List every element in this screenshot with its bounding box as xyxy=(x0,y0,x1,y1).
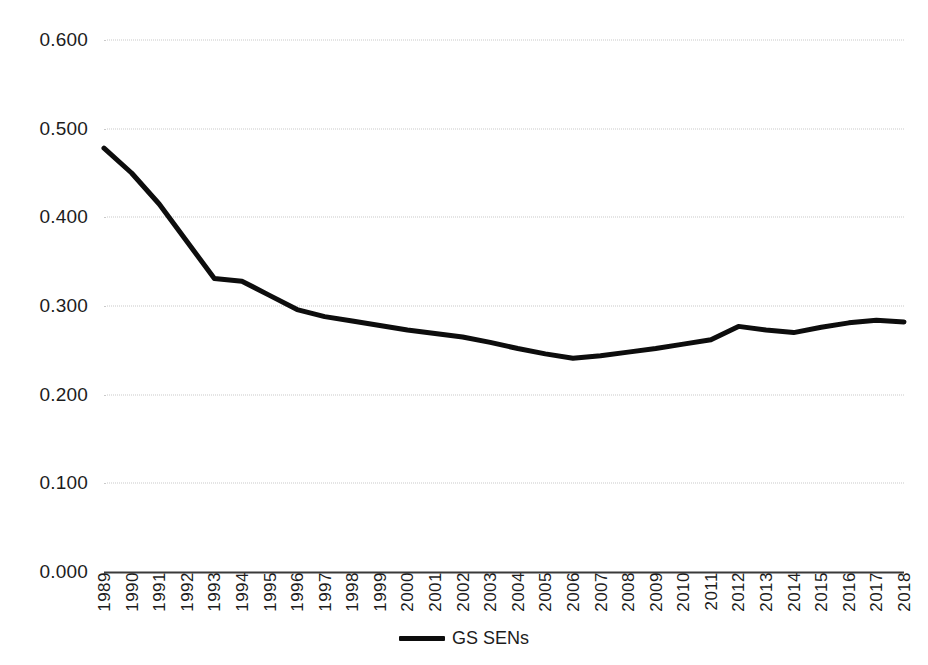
legend-item[interactable]: GS SENs xyxy=(399,628,529,649)
x-tick-label: 2012 xyxy=(729,572,749,612)
x-tick-label: 2017 xyxy=(867,572,887,612)
x-tick-label: 2009 xyxy=(647,572,667,612)
x-tick-label: 2008 xyxy=(619,572,639,612)
x-tick-label: 1993 xyxy=(205,572,225,612)
chart-legend: GS SENs xyxy=(0,628,928,649)
x-tick-label: 2004 xyxy=(509,572,529,612)
x-tick-label: 2006 xyxy=(564,572,584,612)
y-tick-label: 0.600 xyxy=(39,29,88,51)
y-tick-label: 0.200 xyxy=(39,384,88,406)
y-axis: 0.0000.1000.2000.3000.4000.5000.600 xyxy=(0,40,96,572)
x-tick-label: 2007 xyxy=(592,572,612,612)
x-tick-label: 1994 xyxy=(233,572,253,612)
legend-label: GS SENs xyxy=(452,628,529,649)
y-tick-label: 0.100 xyxy=(39,472,88,494)
x-tick-label: 2011 xyxy=(702,572,722,611)
series-layer xyxy=(104,40,904,572)
x-tick-label: 2016 xyxy=(840,572,860,612)
x-tick-label: 2010 xyxy=(674,572,694,612)
x-tick-label: 1990 xyxy=(123,572,143,612)
y-tick-label: 0.000 xyxy=(39,561,88,583)
y-tick-label: 0.400 xyxy=(39,206,88,228)
x-tick-label: 1989 xyxy=(95,572,115,612)
x-tick-label: 2015 xyxy=(812,572,832,612)
y-tick-label: 0.500 xyxy=(39,118,88,140)
x-tick-label: 2018 xyxy=(895,572,915,612)
x-tick-label: 2014 xyxy=(785,572,805,612)
x-tick-label: 1997 xyxy=(316,572,336,612)
x-tick-label: 1992 xyxy=(178,572,198,612)
x-tick-label: 2003 xyxy=(481,572,501,612)
x-tick-label: 2000 xyxy=(398,572,418,612)
x-tick-label: 1999 xyxy=(371,572,391,612)
x-tick-label: 2002 xyxy=(454,572,474,612)
series-line xyxy=(104,148,904,358)
x-tick-label: 1996 xyxy=(288,572,308,612)
legend-line-swatch xyxy=(399,636,445,641)
x-tick-label: 2005 xyxy=(536,572,556,612)
plot-area xyxy=(104,40,904,572)
x-tick-label: 2013 xyxy=(757,572,777,612)
y-tick-label: 0.300 xyxy=(39,295,88,317)
line-chart: 0.0000.1000.2000.3000.4000.5000.600 1989… xyxy=(0,0,928,665)
x-tick-label: 1998 xyxy=(343,572,363,612)
x-tick-label: 2001 xyxy=(426,572,446,612)
x-tick-label: 1995 xyxy=(261,572,281,612)
x-tick-label: 1991 xyxy=(150,572,170,612)
